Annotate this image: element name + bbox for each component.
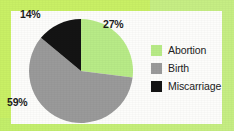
chart-legend: Abortion Birth Miscarriage	[151, 42, 229, 96]
pie-svg	[29, 19, 133, 123]
legend-swatch-birth	[151, 63, 162, 74]
data-label-miscarriage: 14%	[20, 9, 40, 20]
legend-label-miscarriage: Miscarriage	[168, 81, 221, 92]
legend-item-birth[interactable]: Birth	[151, 60, 229, 76]
legend-label-birth: Birth	[168, 63, 189, 74]
data-label-abortion: 27%	[103, 19, 123, 30]
legend-item-miscarriage[interactable]: Miscarriage	[151, 78, 229, 94]
legend-swatch-miscarriage	[151, 81, 162, 92]
legend-swatch-abortion	[151, 45, 162, 56]
legend-item-abortion[interactable]: Abortion	[151, 42, 229, 58]
legend-label-abortion: Abortion	[168, 45, 206, 56]
pie-chart-figure: 14% 27% 59% Abortion Birth Miscarriage	[0, 0, 234, 131]
data-label-birth: 59%	[7, 97, 27, 108]
pie-slices	[29, 19, 133, 123]
